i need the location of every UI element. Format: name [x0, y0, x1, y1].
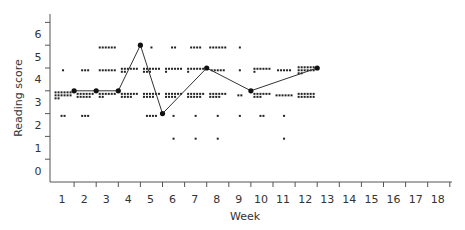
score-dot — [171, 46, 173, 48]
score-dot — [102, 96, 104, 98]
score-dot — [259, 93, 261, 95]
score-dot — [146, 71, 148, 73]
score-dot — [259, 96, 261, 98]
score-dot — [304, 93, 306, 95]
score-dot — [174, 68, 176, 70]
score-dot — [202, 93, 204, 95]
score-dot — [177, 68, 179, 70]
score-dot — [253, 71, 255, 73]
x-tick-label: 5 — [147, 193, 154, 206]
score-dot — [298, 69, 300, 71]
score-dot — [193, 46, 195, 48]
score-dot — [83, 96, 85, 98]
score-dot — [221, 46, 223, 48]
score-dot — [124, 71, 126, 73]
y-tick-label: 1 — [35, 142, 42, 155]
score-dot — [152, 93, 154, 95]
x-tick-label: 10 — [254, 193, 268, 206]
reading-score-chart: 0123456 Reading score 123456789101112131… — [0, 0, 465, 230]
score-dot — [84, 69, 86, 71]
score-dot — [276, 94, 278, 96]
score-dot — [62, 69, 64, 71]
score-dot — [55, 97, 57, 99]
score-dot — [217, 138, 219, 140]
score-dot — [289, 69, 291, 71]
score-dot — [114, 46, 116, 48]
score-dot — [174, 46, 176, 48]
score-dot — [61, 94, 63, 96]
score-dot — [168, 93, 170, 95]
score-dot — [265, 93, 267, 95]
score-dot — [171, 93, 173, 95]
score-dot — [187, 93, 189, 95]
score-dot — [187, 96, 189, 98]
score-dot — [111, 69, 113, 71]
score-dot — [220, 69, 222, 71]
score-dot — [187, 68, 189, 70]
score-dot — [105, 46, 107, 48]
x-tick-label: 12 — [298, 193, 312, 206]
x-axis: 123456789101112131415161718 Week — [50, 182, 452, 223]
score-dot — [307, 66, 309, 68]
y-axis-tick-labels: 0123456 — [35, 28, 42, 178]
score-dot — [149, 115, 151, 117]
score-dot — [61, 115, 63, 117]
score-dot — [217, 115, 219, 117]
score-dot — [64, 91, 66, 93]
score-dot — [259, 115, 261, 117]
score-dot — [253, 93, 255, 95]
score-dot — [283, 138, 285, 140]
score-dot — [190, 46, 192, 48]
x-tick-label: 8 — [213, 193, 220, 206]
score-dot — [146, 93, 148, 95]
x-axis-ticks — [74, 182, 450, 187]
score-dot — [92, 93, 94, 95]
median-point — [204, 65, 209, 70]
score-dot — [155, 68, 157, 70]
score-dot — [87, 115, 89, 117]
score-dot — [262, 93, 264, 95]
score-dot — [86, 93, 88, 95]
score-dot — [155, 115, 157, 117]
score-dot — [291, 94, 293, 96]
y-axis-title: Reading score — [12, 59, 25, 137]
score-dot — [190, 68, 192, 70]
score-dot — [55, 91, 57, 93]
score-dot — [209, 46, 211, 48]
median-point — [160, 111, 165, 116]
x-tick-label: 2 — [81, 193, 88, 206]
score-dot — [83, 93, 85, 95]
score-dot — [89, 96, 91, 98]
score-dot — [143, 71, 145, 73]
score-dot — [133, 68, 135, 70]
score-dot — [173, 138, 175, 140]
score-dot — [81, 115, 83, 117]
x-tick-label: 13 — [320, 193, 334, 206]
score-dot — [288, 94, 290, 96]
score-dot — [253, 68, 255, 70]
score-dot — [196, 96, 198, 98]
score-dot — [102, 93, 104, 95]
y-tick-label: 3 — [35, 96, 42, 109]
score-dot — [146, 115, 148, 117]
score-dot — [239, 46, 241, 48]
score-dot — [237, 94, 239, 96]
score-dot — [277, 69, 279, 71]
y-tick-label: 4 — [35, 73, 42, 86]
score-dot — [130, 68, 132, 70]
score-dot — [256, 96, 258, 98]
x-tick-label: 3 — [103, 193, 110, 206]
y-tick-label: 0 — [35, 165, 42, 178]
score-dot — [86, 96, 88, 98]
score-dot — [152, 96, 154, 98]
score-dot-clusters — [55, 46, 315, 139]
score-dot — [80, 96, 82, 98]
score-dot — [193, 68, 195, 70]
score-dot — [310, 96, 312, 98]
score-dot — [212, 46, 214, 48]
score-dot — [121, 71, 123, 73]
score-dot — [114, 93, 116, 95]
score-dot — [285, 94, 287, 96]
score-dot — [193, 93, 195, 95]
median-point — [72, 88, 77, 93]
